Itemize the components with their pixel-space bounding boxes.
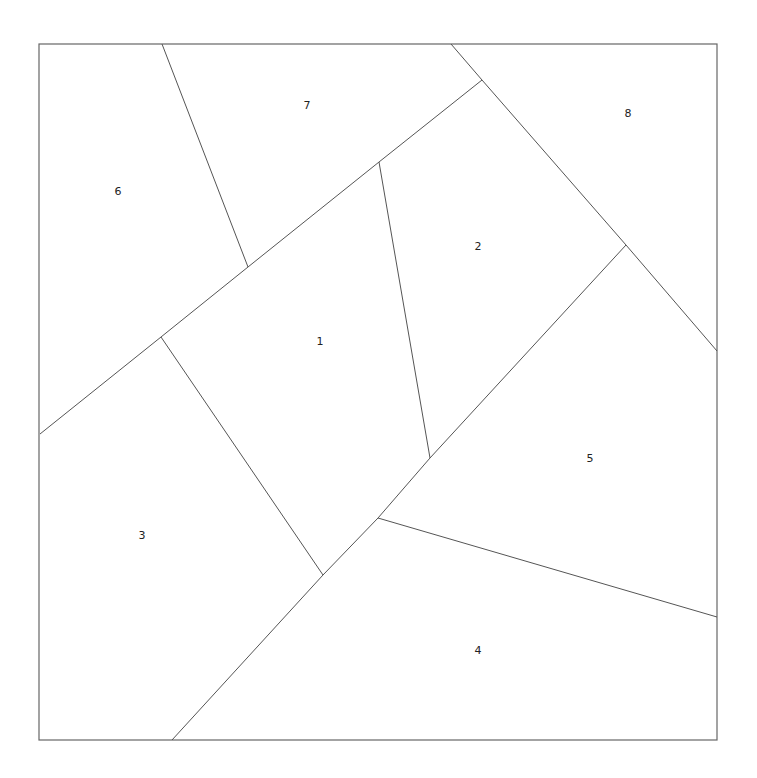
region-label-2: 2 — [475, 240, 482, 253]
dividing-line-a — [162, 44, 248, 267]
region-label-7: 7 — [304, 99, 311, 112]
region-label-3: 3 — [139, 529, 146, 542]
dividing-line-c — [451, 44, 717, 351]
region-label-8: 8 — [625, 107, 632, 120]
dividing-line-b — [40, 80, 482, 434]
outer-border — [39, 44, 717, 740]
region-labels: 12345678 — [115, 99, 632, 657]
region-label-6: 6 — [115, 185, 122, 198]
dividing-lines — [40, 44, 717, 740]
dividing-line-e — [172, 245, 626, 740]
region-label-4: 4 — [475, 644, 482, 657]
dividing-line-g — [378, 518, 717, 617]
region-label-5: 5 — [587, 452, 594, 465]
region-label-1: 1 — [317, 335, 324, 348]
dividing-line-d — [379, 162, 430, 458]
region-diagram: 12345678 — [0, 0, 757, 778]
dividing-line-f — [161, 337, 323, 575]
